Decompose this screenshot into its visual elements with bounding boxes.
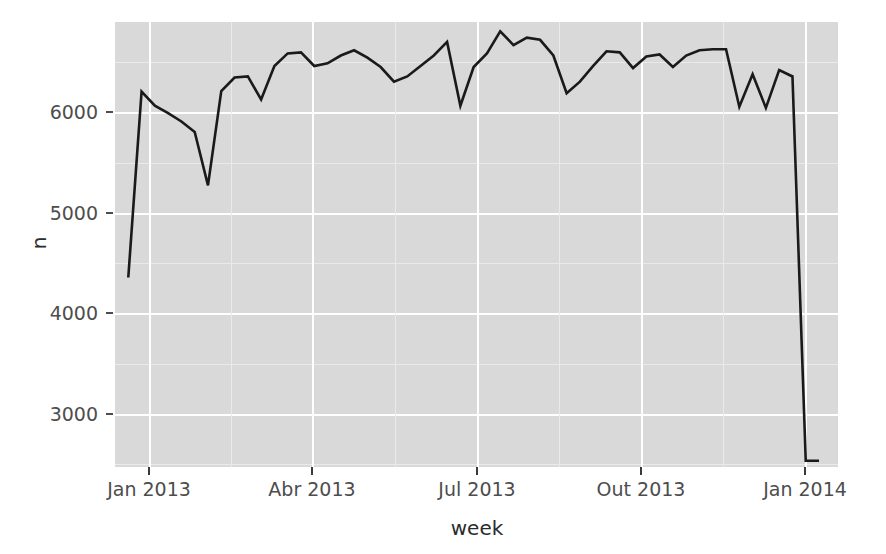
x-axis-title: week [451,516,504,540]
x-tick-label-jan-2014: Jan 2014 [763,478,847,500]
x-tick-label-out-2013: Out 2013 [597,478,686,500]
y-tick-label-6000: 6000 [50,101,98,123]
y-tick-label-3000: 3000 [50,403,98,425]
x-tick-mark [804,467,806,475]
y-tick-label-4000: 4000 [50,302,98,324]
series-line-n [128,31,819,460]
y-tick-label-5000: 5000 [50,202,98,224]
y-tick-mark [106,212,113,214]
y-tick-mark [106,111,113,113]
y-axis-tick-marks [106,0,115,554]
x-tick-label-abr-2013: Abr 2013 [268,478,355,500]
x-tick-label-jan-2013: Jan 2013 [107,478,191,500]
plot-panel [115,22,838,467]
x-tick-mark [640,467,642,475]
y-tick-mark [106,413,113,415]
x-tick-mark [148,467,150,475]
data-line-svg [115,22,838,467]
y-axis-title: n [27,237,51,250]
x-tick-label-jul-2013: Jul 2013 [438,478,515,500]
chart-figure: 6000 5000 4000 3000 n Jan 2013 Abr 2013 … [0,0,886,554]
x-tick-mark [476,467,478,475]
x-tick-mark [311,467,313,475]
y-axis-tick-labels: 6000 5000 4000 3000 [0,0,98,554]
y-tick-mark [106,312,113,314]
